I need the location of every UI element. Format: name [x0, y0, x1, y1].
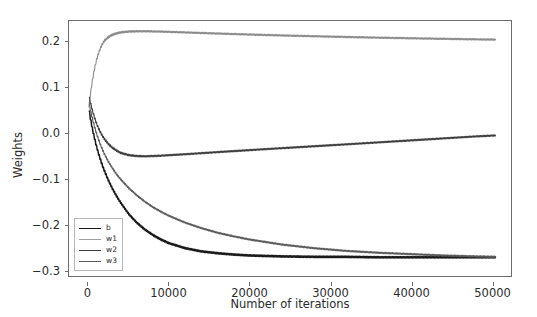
x-tick-mark	[87, 282, 88, 286]
legend-swatch-w1	[79, 239, 101, 240]
legend-swatch-b	[79, 228, 101, 229]
y-axis-tick-labels: 0.20.10.0−0.1−0.2−0.3	[6, 20, 60, 277]
legend-label: w1	[106, 235, 117, 243]
legend-label: w2	[106, 246, 117, 254]
series-line-w2	[89, 97, 496, 157]
series-line-b	[89, 111, 496, 258]
matplotlib-figure: Weights 0.20.10.0−0.1−0.2−0.3 bw1w2w3 01…	[0, 0, 537, 317]
plot-area: bw1w2w3	[68, 20, 512, 277]
y-tick-label: −0.1	[32, 172, 60, 186]
y-tick-label: −0.3	[32, 264, 60, 278]
legend-item-b[interactable]: b	[79, 223, 117, 233]
series-line-w1	[89, 30, 496, 107]
x-tick-mark	[493, 282, 494, 286]
x-tick-mark	[168, 282, 169, 286]
y-tick-label: 0.0	[42, 126, 60, 140]
legend-item-w3[interactable]: w3	[79, 256, 117, 266]
legend-label: b	[106, 224, 111, 232]
x-tick-mark	[249, 282, 250, 286]
y-tick-label: −0.2	[32, 218, 60, 232]
series-line-w3	[89, 104, 496, 258]
x-tick-mark	[412, 282, 413, 286]
chart-legend: bw1w2w3	[74, 218, 123, 271]
x-tick-mark	[331, 282, 332, 286]
y-tick-label: 0.2	[42, 34, 60, 48]
chart-canvas	[69, 21, 511, 276]
y-tick-label: 0.1	[42, 80, 60, 94]
legend-item-w1[interactable]: w1	[79, 234, 117, 244]
legend-swatch-w2	[79, 250, 101, 251]
legend-label: w3	[106, 257, 117, 265]
x-axis-label: Number of iterations	[68, 297, 512, 311]
legend-swatch-w3	[79, 261, 101, 262]
legend-item-w2[interactable]: w2	[79, 245, 117, 255]
